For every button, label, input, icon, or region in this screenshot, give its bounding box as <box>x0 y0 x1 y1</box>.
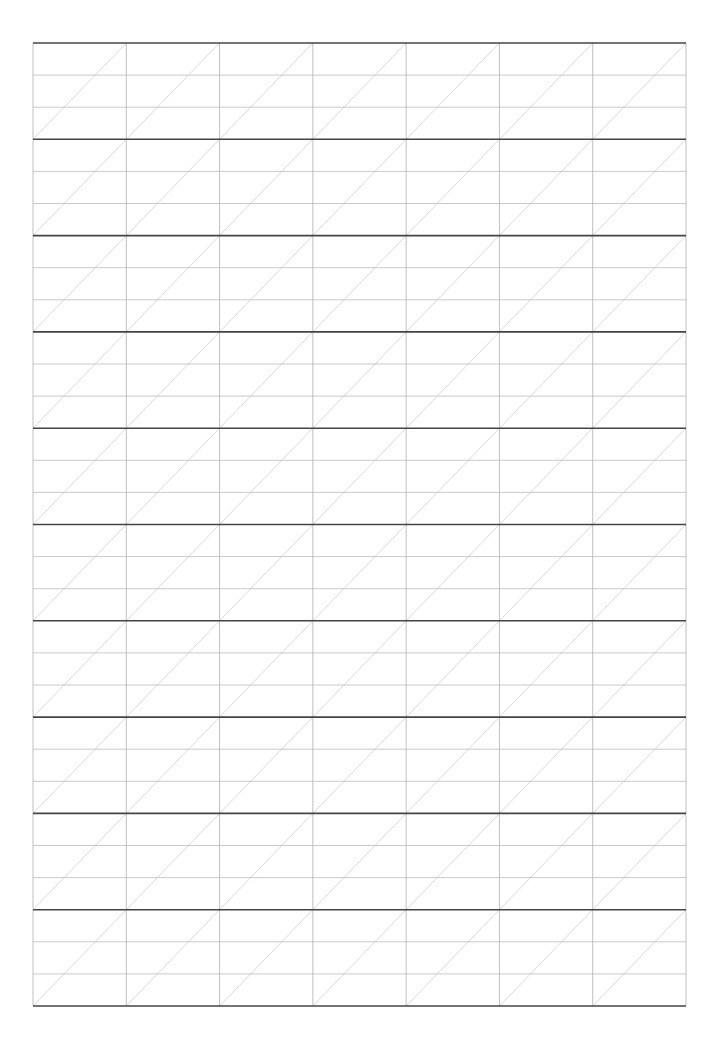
diagonal-guide-line <box>33 428 126 524</box>
diagonal-guide-line <box>313 525 406 621</box>
diagonal-guide-line <box>406 717 499 813</box>
diagonal-guide-line <box>33 621 126 717</box>
diagonal-guide-line <box>499 813 592 909</box>
diagonal-guide-line <box>406 332 499 428</box>
diagonal-guide-line <box>33 332 126 428</box>
diagonal-guide-line <box>593 236 686 332</box>
diagonal-guide-line <box>126 332 219 428</box>
diagonal-guide-line <box>593 332 686 428</box>
diagonal-guide-line <box>313 428 406 524</box>
diagonal-guide-line <box>220 332 313 428</box>
diagonal-guide-line <box>593 813 686 909</box>
diagonal-guide-line <box>406 139 499 235</box>
diagonal-guide-line <box>499 621 592 717</box>
diagonal-guide-line <box>313 910 406 1006</box>
diagonal-guide-line <box>593 717 686 813</box>
diagonal-guide-line <box>406 621 499 717</box>
diagonal-guide-line <box>313 139 406 235</box>
diagonal-guide-line <box>313 717 406 813</box>
diagonal-guide-line <box>593 621 686 717</box>
diagonal-guide-line <box>33 236 126 332</box>
diagonal-guide-line <box>499 717 592 813</box>
diagonal-guide-line <box>220 139 313 235</box>
diagonal-guide-line <box>126 236 219 332</box>
diagonal-guide-line <box>313 43 406 139</box>
diagonal-guide-line <box>313 332 406 428</box>
diagonal-guide-line <box>406 525 499 621</box>
diagonal-guide-line <box>220 428 313 524</box>
diagonal-guide-line <box>126 428 219 524</box>
diagonal-guide-line <box>126 813 219 909</box>
diagonal-guide-line <box>220 813 313 909</box>
diagonal-guide-line <box>220 236 313 332</box>
diagonal-guide-line <box>593 525 686 621</box>
diagonal-guide-line <box>126 621 219 717</box>
diagonal-guide-line <box>126 525 219 621</box>
diagonal-guide-line <box>593 139 686 235</box>
diagonal-guide-line <box>406 813 499 909</box>
diagonal-guide-line <box>499 43 592 139</box>
diagonal-guide-line <box>406 910 499 1006</box>
diagonal-guide-line <box>220 621 313 717</box>
diagonal-guide-line <box>33 43 126 139</box>
diagonal-guide-line <box>126 910 219 1006</box>
diagonal-guide-line <box>33 910 126 1006</box>
diagonal-guide-line <box>220 525 313 621</box>
practice-grid <box>0 0 723 1044</box>
diagonal-guide-line <box>126 139 219 235</box>
diagonal-guide-line <box>313 236 406 332</box>
diagonal-guide-line <box>126 717 219 813</box>
diagonal-guide-line <box>406 236 499 332</box>
diagonal-guide-line <box>220 43 313 139</box>
diagonal-guide-line <box>593 910 686 1006</box>
diagonal-guide-line <box>126 43 219 139</box>
diagonal-guide-line <box>33 813 126 909</box>
diagonal-guide-line <box>33 525 126 621</box>
diagonal-guide-line <box>499 139 592 235</box>
diagonal-guide-line <box>499 428 592 524</box>
diagonal-guide-line <box>313 813 406 909</box>
diagonal-guide-line <box>313 621 406 717</box>
diagonal-guide-line <box>406 428 499 524</box>
diagonal-guide-line <box>33 717 126 813</box>
diagonal-guide-line <box>33 139 126 235</box>
diagonal-guide-line <box>499 910 592 1006</box>
diagonal-guide-line <box>499 525 592 621</box>
diagonal-guide-line <box>593 428 686 524</box>
diagonal-guide-line <box>499 332 592 428</box>
diagonal-guide-line <box>499 236 592 332</box>
diagonal-guide-line <box>406 43 499 139</box>
diagonal-guide-line <box>593 43 686 139</box>
diagonal-guide-line <box>220 910 313 1006</box>
diagonal-guide-line <box>220 717 313 813</box>
